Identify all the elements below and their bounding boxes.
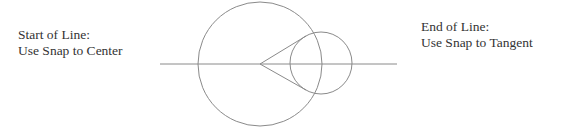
upper-tangent-line [260, 36, 306, 64]
lower-tangent-line [260, 64, 306, 90]
small-circle [290, 32, 352, 94]
diagram-canvas [0, 0, 561, 130]
